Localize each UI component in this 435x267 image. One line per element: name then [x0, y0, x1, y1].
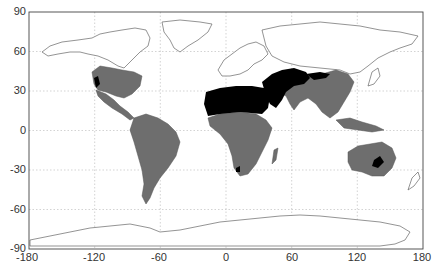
x-tick-label: 60 [286, 252, 298, 263]
x-tick-label: -180 [16, 252, 38, 263]
y-tick-label: 60 [14, 46, 26, 57]
y-tick-label: 0 [20, 125, 26, 136]
map-plot-area [0, 0, 435, 267]
y-tick-label: -30 [10, 164, 26, 175]
y-tick-label: -60 [10, 204, 26, 215]
x-tick-label: 0 [223, 252, 229, 263]
y-tick-label: 90 [14, 6, 26, 17]
x-tick-label: 120 [348, 252, 366, 263]
y-tick-label: 30 [14, 85, 26, 96]
x-tick-label: -120 [83, 252, 105, 263]
x-tick-label: 180 [413, 252, 431, 263]
world-map-figure: 90 60 30 0 -30 -60 -90 -180 -120 -60 0 6… [0, 0, 435, 267]
x-tick-label: -60 [151, 252, 167, 263]
